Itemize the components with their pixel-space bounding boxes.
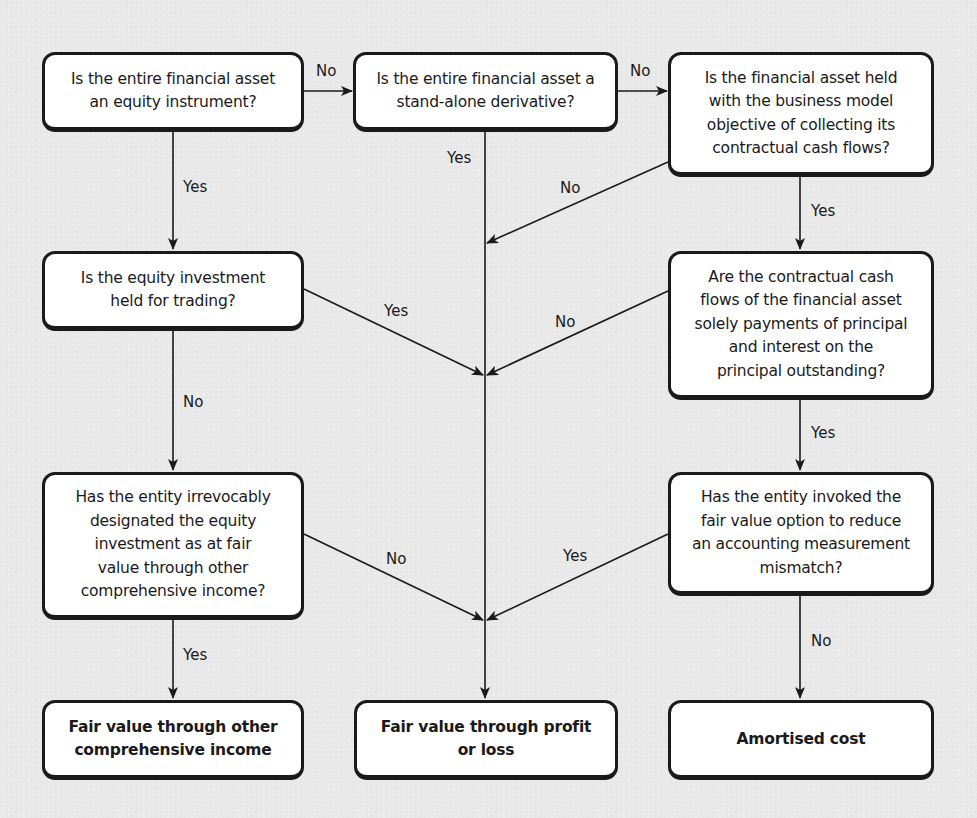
label-sppi-yes: Yes [811,424,835,442]
node-text: Are the contractual cash flows of the fi… [695,266,908,384]
label-trading-no: No [183,393,203,411]
outcome-text: Fair value through profit or loss [381,716,591,762]
label-business-model-yes: Yes [811,202,835,220]
node-fvoci-designation-question: Has the entity irrevocably designated th… [42,472,304,620]
label-derivative-no: No [630,62,650,80]
node-text: Has the entity invoked the fair value op… [692,486,910,580]
edge-business-model-no [487,162,668,243]
label-business-model-no: No [560,179,580,197]
label-sppi-no: No [555,313,575,331]
label-fvoci-yes: Yes [183,646,207,664]
node-text: Is the equity investment held for tradin… [81,267,265,314]
outcome-text: Amortised cost [736,728,865,751]
flowchart-canvas: Is the entire financial asset an equity … [0,0,977,818]
label-equity-no: No [316,62,336,80]
outcome-fvtpl: Fair value through profit or loss [354,700,618,780]
node-sppi-question: Are the contractual cash flows of the fi… [668,251,934,400]
node-text: Is the entire financial asset a stand-al… [376,68,594,115]
label-fvoci-no: No [386,550,406,568]
label-fvo-yes: Yes [563,547,587,565]
node-fair-value-option-question: Has the entity invoked the fair value op… [668,472,934,596]
outcome-amortised-cost: Amortised cost [668,700,934,780]
node-standalone-derivative-question: Is the entire financial asset a stand-al… [353,52,618,132]
edge-fvoci-no [304,534,483,620]
node-text: Is the entire financial asset an equity … [71,68,275,115]
node-held-for-trading-question: Is the equity investment held for tradin… [42,251,304,331]
outcome-fvoci: Fair value through other comprehensive i… [42,700,304,780]
label-equity-yes: Yes [183,178,207,196]
label-trading-yes: Yes [384,302,408,320]
node-business-model-question: Is the financial asset held with the bus… [668,52,934,177]
outcome-text: Fair value through other comprehensive i… [68,716,277,762]
label-fvo-no: No [811,632,831,650]
node-equity-instrument-question: Is the entire financial asset an equity … [42,52,304,132]
node-text: Has the entity irrevocably designated th… [75,486,270,604]
edge-sppi-no [487,291,668,375]
node-text: Is the financial asset held with the bus… [705,67,898,161]
label-derivative-yes: Yes [447,149,471,167]
